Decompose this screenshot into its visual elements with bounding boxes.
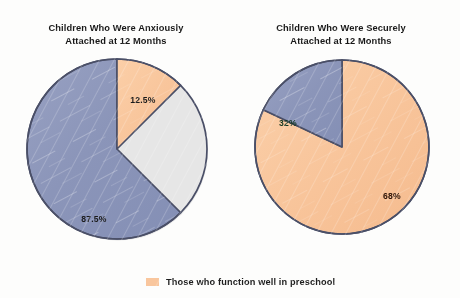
figure-canvas: Children Who Were Anxiously Attached at … xyxy=(0,0,460,298)
chart-title-line-2: Attached at 12 Months xyxy=(243,35,439,48)
slice-value-securely-well: 68% xyxy=(383,191,401,201)
slice-value-anxiously-well: 12.5% xyxy=(130,95,155,105)
legend-orange-swatch-icon xyxy=(146,278,159,286)
chart-title-anxiously-attached: Children Who Were Anxiously Attached at … xyxy=(18,22,214,47)
chart-title-securely-attached: Children Who Were Securely Attached at 1… xyxy=(243,22,439,47)
pie-chart-securely-attached xyxy=(252,57,432,237)
chart-title-line-2: Attached at 12 Months xyxy=(18,35,214,48)
chart-title-line-1: Children Who Were Anxiously xyxy=(18,22,214,35)
legend: Those who function well in preschool xyxy=(146,277,335,287)
pie-chart-anxiously-attached xyxy=(24,56,210,242)
legend-label: Those who function well in preschool xyxy=(166,277,335,287)
slice-value-securely-not-well: 32% xyxy=(279,118,297,128)
pie-svg-anxiously-attached xyxy=(24,56,210,242)
chart-title-line-1: Children Who Were Securely xyxy=(243,22,439,35)
pie-svg-securely-attached xyxy=(252,57,432,237)
slice-value-anxiously-not-well: 87.5% xyxy=(81,214,106,224)
